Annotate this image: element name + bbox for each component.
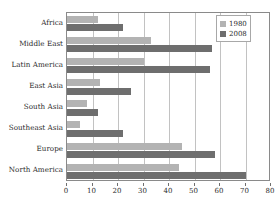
y-axis-label: East Asia	[0, 82, 63, 90]
x-axis-label: 80	[266, 187, 275, 195]
x-axis-tick	[117, 183, 118, 186]
x-axis-label: 0	[64, 187, 68, 195]
bar-group	[67, 140, 269, 161]
legend-label: 2008	[229, 30, 247, 38]
bar-1980	[67, 164, 179, 171]
x-axis-label: 70	[240, 187, 249, 195]
bar-2008	[67, 66, 210, 73]
y-axis-label: Europe	[0, 145, 63, 153]
bar-1980	[67, 58, 144, 65]
bar-2008	[67, 151, 215, 158]
y-axis-label: Latin America	[0, 61, 63, 69]
bar-1980	[67, 79, 100, 86]
bar-1980	[67, 100, 87, 107]
x-axis-label: 20	[113, 187, 122, 195]
y-axis-label: Middle East	[0, 40, 63, 48]
legend-swatch-icon	[220, 31, 226, 37]
bar-group	[67, 161, 269, 181]
x-axis-tick	[270, 183, 271, 186]
bar-1980	[67, 37, 151, 44]
x-axis-tick	[219, 183, 220, 186]
x-axis-label: 60	[215, 187, 224, 195]
y-axis-label: Southeast Asia	[0, 124, 63, 132]
x-axis-tick	[143, 183, 144, 186]
y-axis-labels: AfricaMiddle EastLatin AmericaEast AsiaS…	[0, 12, 63, 181]
x-axis-labels: 01020304050607080	[0, 183, 278, 197]
bar-group	[67, 98, 269, 119]
bar-2008	[67, 24, 123, 31]
x-axis-label: 30	[138, 187, 147, 195]
x-axis-label: 50	[189, 187, 198, 195]
bar-1980	[67, 143, 182, 150]
bar-2008	[67, 45, 212, 52]
bar-2008	[67, 172, 246, 179]
chart-legend: 19802008	[216, 15, 251, 42]
x-axis-tick	[66, 183, 67, 186]
x-axis-tick	[194, 183, 195, 186]
legend-item-1980: 1980	[220, 19, 247, 28]
bar-2008	[67, 109, 98, 116]
bar-group	[67, 55, 269, 76]
y-axis-label: South Asia	[0, 103, 63, 111]
bar-1980	[67, 16, 98, 23]
legend-swatch-icon	[220, 21, 226, 27]
bar-group	[67, 119, 269, 140]
x-axis-tick	[245, 183, 246, 186]
y-axis-label: North America	[0, 166, 63, 174]
bar-group	[67, 76, 269, 97]
legend-label: 1980	[229, 20, 247, 28]
y-axis-label: Africa	[0, 19, 63, 27]
bar-2008	[67, 88, 131, 95]
x-axis-label: 10	[87, 187, 96, 195]
bar-2008	[67, 130, 123, 137]
legend-item-2008: 2008	[220, 29, 247, 38]
bar-chart: AfricaMiddle EastLatin AmericaEast AsiaS…	[0, 0, 278, 202]
x-axis-label: 40	[164, 187, 173, 195]
bar-1980	[67, 121, 80, 128]
x-axis-tick	[92, 183, 93, 186]
x-axis-tick	[168, 183, 169, 186]
